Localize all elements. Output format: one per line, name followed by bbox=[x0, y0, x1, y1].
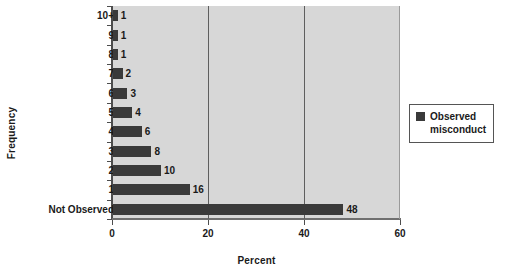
y-tick-label-8: 8 bbox=[0, 45, 114, 64]
y-tick-label-1: 1 bbox=[0, 180, 114, 199]
y-tick-mark bbox=[107, 83, 112, 84]
bar bbox=[113, 126, 142, 137]
legend-entry-observed-misconduct: Observed misconduct bbox=[430, 110, 486, 136]
bar-value-label: 8 bbox=[154, 146, 160, 157]
y-tick-label-4: 4 bbox=[0, 122, 114, 141]
bar-value-label: 4 bbox=[135, 107, 141, 118]
chart-row: 91 bbox=[0, 25, 509, 44]
y-tick-label-7: 7 bbox=[0, 64, 114, 83]
y-tick-label-5: 5 bbox=[0, 103, 114, 122]
chart-row: 210 bbox=[0, 161, 509, 180]
legend-label-line2: misconduct bbox=[430, 123, 486, 136]
y-tick-label-10-: 10+ bbox=[0, 6, 114, 25]
y-tick-label-not-observed: Not Observed bbox=[0, 200, 114, 219]
bar bbox=[113, 88, 127, 99]
bar bbox=[113, 204, 343, 215]
bar-value-label: 6 bbox=[145, 126, 151, 137]
bar-value-label: 10 bbox=[164, 165, 175, 176]
legend: Observed misconduct bbox=[409, 104, 494, 143]
y-tick-mark bbox=[107, 161, 112, 162]
bar bbox=[113, 146, 151, 157]
y-tick-mark bbox=[107, 219, 112, 220]
bar-value-label: 1 bbox=[121, 10, 127, 21]
bar-value-label: 2 bbox=[126, 68, 132, 79]
y-tick-label-2: 2 bbox=[0, 161, 114, 180]
y-tick-label-6: 6 bbox=[0, 84, 114, 103]
chart-row: 72 bbox=[0, 64, 509, 83]
y-tick-mark bbox=[107, 6, 112, 7]
chart-row: 63 bbox=[0, 83, 509, 102]
x-axis-title: Percent bbox=[112, 255, 401, 266]
y-tick-mark bbox=[107, 45, 112, 46]
y-tick-mark bbox=[107, 200, 112, 201]
y-tick-mark bbox=[107, 142, 112, 143]
chart-row: 81 bbox=[0, 45, 509, 64]
y-tick-mark bbox=[107, 25, 112, 26]
chart-row: 10+1 bbox=[0, 6, 509, 25]
y-tick-mark bbox=[107, 122, 112, 123]
bar bbox=[113, 68, 123, 79]
legend-label-line1: Observed bbox=[430, 110, 486, 123]
bar bbox=[113, 30, 118, 41]
bar bbox=[113, 107, 132, 118]
bar-value-label: 16 bbox=[193, 184, 204, 195]
chart-row: Not Observed48 bbox=[0, 200, 509, 219]
bar-value-label: 48 bbox=[346, 204, 357, 215]
bar bbox=[113, 184, 190, 195]
y-tick-mark bbox=[107, 180, 112, 181]
bar bbox=[113, 10, 118, 21]
bar bbox=[113, 49, 118, 60]
bar-value-label: 1 bbox=[121, 49, 127, 60]
y-tick-label-9: 9 bbox=[0, 26, 114, 45]
bar bbox=[113, 165, 161, 176]
chart-row: 38 bbox=[0, 142, 509, 161]
bar-chart: Frequency 0204060 10+1918172635446382101… bbox=[0, 0, 509, 280]
bar-value-label: 1 bbox=[121, 30, 127, 41]
y-tick-label-3: 3 bbox=[0, 142, 114, 161]
legend-swatch-observed-misconduct bbox=[416, 112, 425, 121]
bar-value-label: 3 bbox=[130, 88, 136, 99]
chart-row: 116 bbox=[0, 180, 509, 199]
y-tick-mark bbox=[107, 103, 112, 104]
y-tick-mark bbox=[107, 64, 112, 65]
